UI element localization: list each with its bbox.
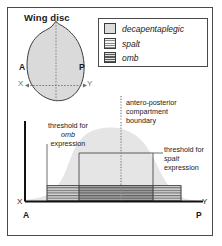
omb-threshold-gene: omb <box>61 130 75 139</box>
graph-anterior-label: A <box>23 211 29 220</box>
wing-disc-posterior-label: P <box>79 63 85 72</box>
spalt-threshold-gene: spalt <box>164 154 179 163</box>
legend-swatch-spalt-icon <box>104 38 116 49</box>
page-title: Wing disc <box>24 13 70 23</box>
legend: decapentaplegic spalt omb <box>98 18 208 67</box>
spalt-threshold-line1: threshold for <box>164 145 204 154</box>
legend-swatch-decapentaplegic-icon <box>104 23 116 34</box>
legend-label-omb: omb <box>122 53 139 63</box>
graph-axis-right-label: Y <box>202 198 207 207</box>
wing-disc-axis-right-label: Y <box>87 80 92 89</box>
legend-label-decapentaplegic: decapentaplegic <box>122 24 184 34</box>
wing-disc-anterior-label: A <box>19 63 25 72</box>
wing-disc-morphogen-figure: Wing disc A P X Y decapentaplegic spalt … <box>0 0 222 246</box>
legend-swatch-omb-icon <box>104 52 116 63</box>
wing-disc-shape <box>27 22 84 101</box>
omb-threshold-annotation: threshold for omb expression <box>38 122 98 148</box>
spalt-threshold-line2: expression <box>164 163 199 172</box>
wing-disc-axis-left-label: X <box>18 80 23 89</box>
omb-threshold-line1: threshold for <box>48 121 88 130</box>
omb-threshold-line2: expression <box>51 139 86 148</box>
legend-item-omb: omb <box>104 51 139 64</box>
legend-item-spalt: spalt <box>104 37 140 50</box>
graph-axis-left-label: X <box>17 198 22 207</box>
spalt-expression-band <box>79 186 153 201</box>
spalt-threshold-annotation: threshold for spalt expression <box>164 146 216 172</box>
graph-posterior-label: P <box>196 211 202 220</box>
ap-boundary-annotation: antero-posterior compartment boundary <box>126 99 177 125</box>
legend-item-decapentaplegic: decapentaplegic <box>104 22 184 35</box>
legend-label-spalt: spalt <box>122 39 140 49</box>
